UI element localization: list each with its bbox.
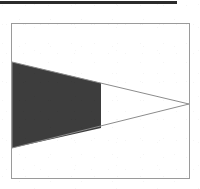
figure-frame <box>11 23 190 179</box>
shaded-trapezoid <box>12 62 101 148</box>
horizontal-rule <box>0 1 177 4</box>
page-canvas <box>0 0 200 189</box>
figure-drawing <box>12 24 189 178</box>
